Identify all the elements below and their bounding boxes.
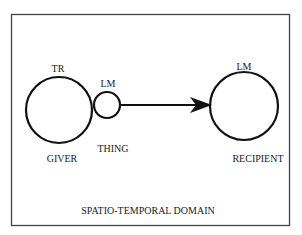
giver-circle	[26, 77, 92, 143]
transfer-diagram: TR GIVER LM THING LM RECIPIENT SPATIO-TE…	[0, 0, 302, 235]
recipient-bottom-label: RECIPIENT	[232, 153, 283, 164]
giver-top-label: TR	[52, 63, 65, 74]
thing-top-label: LM	[101, 78, 116, 89]
thing-bottom-label: THING	[97, 143, 128, 154]
giver-bottom-label: GIVER	[47, 153, 78, 164]
domain-frame	[12, 15, 290, 226]
thing-circle	[94, 92, 120, 118]
frame-label: SPATIO-TEMPORAL DOMAIN	[81, 205, 214, 216]
recipient-circle	[210, 72, 278, 140]
recipient-top-label: LM	[237, 61, 252, 72]
